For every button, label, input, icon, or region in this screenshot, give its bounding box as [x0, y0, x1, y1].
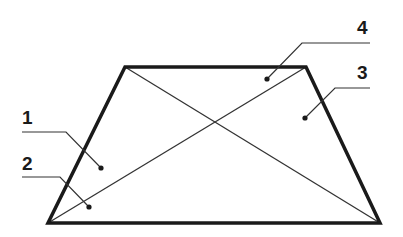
region-label-3: 3: [357, 62, 368, 83]
region-label-1: 1: [22, 107, 33, 128]
leader-line-2: [22, 177, 89, 207]
callout-2: 2: [22, 153, 92, 210]
callout-4: 4: [264, 17, 370, 82]
trapezoid-diagram: 1 2 3 4: [0, 0, 403, 237]
region-marker-4: [264, 76, 269, 81]
leader-line-3: [305, 88, 370, 118]
diagonals: [48, 67, 380, 223]
region-label-2: 2: [22, 153, 33, 174]
region-marker-1: [98, 165, 103, 170]
leader-line-4: [267, 43, 370, 79]
region-label-4: 4: [357, 17, 368, 38]
trapezoid-outline: [48, 67, 380, 223]
callout-3: 3: [302, 62, 370, 121]
region-marker-2: [86, 204, 91, 209]
region-marker-3: [302, 115, 307, 120]
